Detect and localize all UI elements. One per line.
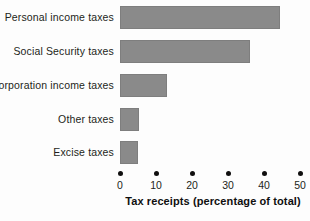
x-tick-label: 10 <box>136 179 176 191</box>
tick-dot-icon <box>298 171 303 176</box>
bar-row: Social Security taxes <box>0 40 310 63</box>
bar-row: Corporation income taxes <box>0 74 310 97</box>
category-label: Corporation income taxes <box>0 74 114 97</box>
bar-chart: Personal income taxes Social Security ta… <box>0 0 310 221</box>
plot-area: Personal income taxes Social Security ta… <box>0 0 310 168</box>
bar <box>120 108 139 131</box>
bar <box>120 40 250 63</box>
x-axis: 0 10 20 30 40 50 Tax receipts (percentag… <box>0 168 310 221</box>
tick-dot-icon <box>262 171 267 176</box>
category-label: Excise taxes <box>53 141 114 164</box>
tick-dot-icon <box>154 171 159 176</box>
x-tick-label: 50 <box>280 179 310 191</box>
bar-row: Other taxes <box>0 108 310 131</box>
category-label: Personal income taxes <box>5 6 114 29</box>
tick-dot-icon <box>190 171 195 176</box>
bar-row: Personal income taxes <box>0 6 310 29</box>
bar <box>120 141 138 164</box>
x-tick-label: 30 <box>208 179 248 191</box>
tick-dot-icon <box>118 171 123 176</box>
tick-dot-icon <box>226 171 231 176</box>
bar-row: Excise taxes <box>0 141 310 164</box>
x-axis-title: Tax receipts (percentage of total) <box>120 195 306 207</box>
category-label: Other taxes <box>58 108 114 131</box>
x-tick-label: 0 <box>100 179 140 191</box>
x-tick-label: 40 <box>244 179 284 191</box>
category-label: Social Security taxes <box>13 40 114 63</box>
bar <box>120 6 280 29</box>
x-tick-label: 20 <box>172 179 212 191</box>
bar <box>120 74 167 97</box>
